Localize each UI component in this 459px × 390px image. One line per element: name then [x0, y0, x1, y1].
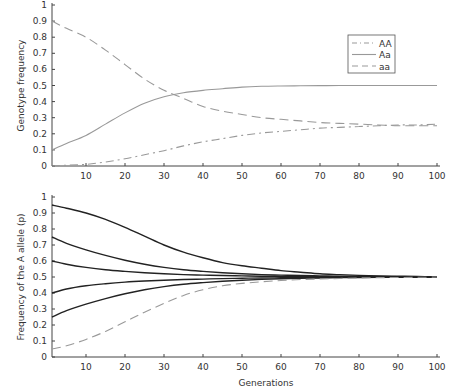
- y-tick-label: 0.2: [33, 320, 47, 330]
- y-tick-label: 0.3: [33, 304, 47, 314]
- y-axis-title: Genotype frequency: [16, 39, 26, 132]
- x-tick-label: 40: [197, 362, 209, 372]
- x-tick-label: 30: [158, 362, 170, 372]
- x-axis-title: Generations: [239, 378, 294, 388]
- series-line-aa: [52, 85, 437, 149]
- y-tick-label: 0.2: [33, 129, 47, 139]
- x-tick-label: 30: [158, 171, 170, 181]
- y-tick-label: 1: [41, 0, 47, 10]
- y-tick-label: 0: [41, 161, 47, 171]
- legend: AAAaaa: [348, 35, 395, 73]
- x-tick-label: 40: [197, 171, 209, 181]
- x-tick-label: 20: [119, 171, 131, 181]
- x-tick-label: 10: [80, 362, 92, 372]
- y-tick-label: 0.7: [33, 240, 47, 250]
- x-tick-label: 100: [428, 362, 445, 372]
- y-tick-label: 0.4: [33, 288, 48, 298]
- y-tick-label: 0.6: [33, 256, 48, 266]
- y-axis-title: Frequency of the A allele (p): [16, 213, 26, 340]
- legend-label: Aa: [379, 50, 391, 60]
- y-tick-label: 0.9: [33, 16, 48, 26]
- x-tick-label: 80: [353, 171, 365, 181]
- y-tick-label: 0.1: [33, 145, 47, 155]
- series-line-p0-0-4: [52, 277, 437, 293]
- y-tick-label: 0.6: [33, 64, 48, 74]
- genotype-frequency-panel: 00.10.20.30.40.50.60.70.80.9110203040506…: [16, 0, 446, 181]
- x-tick-label: 20: [119, 362, 131, 372]
- y-tick-label: 0.1: [33, 336, 47, 346]
- series-line-p0-0-75: [52, 237, 437, 277]
- legend-label: aa: [379, 62, 390, 72]
- y-tick-label: 0.9: [33, 208, 48, 218]
- x-tick-label: 90: [392, 171, 404, 181]
- allele-frequency-panel: 00.10.20.30.40.50.60.70.80.9110203040506…: [16, 192, 446, 388]
- y-tick-label: 1: [41, 192, 47, 202]
- y-tick-label: 0.3: [33, 113, 47, 123]
- y-tick-label: 0.5: [33, 81, 47, 91]
- y-tick-label: 0.4: [33, 97, 48, 107]
- series-line-p0-0-05: [52, 277, 437, 349]
- series-line-aa: [52, 124, 437, 166]
- series-line-p0-0-6: [52, 261, 437, 277]
- x-tick-label: 100: [428, 171, 445, 181]
- chart-figure: 00.10.20.30.40.50.60.70.80.9110203040506…: [0, 0, 459, 390]
- x-tick-label: 50: [236, 171, 248, 181]
- x-tick-label: 10: [80, 171, 92, 181]
- x-tick-label: 70: [314, 171, 326, 181]
- x-tick-label: 60: [275, 171, 287, 181]
- x-tick-label: 50: [236, 362, 248, 372]
- x-tick-label: 90: [392, 362, 404, 372]
- series-line-p0-0-95: [52, 205, 437, 277]
- y-tick-label: 0.8: [33, 32, 48, 42]
- y-tick-label: 0.5: [33, 272, 47, 282]
- y-tick-label: 0.7: [33, 48, 47, 58]
- x-tick-label: 70: [314, 362, 326, 372]
- x-tick-label: 60: [275, 362, 287, 372]
- x-tick-label: 80: [353, 362, 365, 372]
- y-tick-label: 0: [41, 352, 47, 362]
- y-tick-label: 0.8: [33, 224, 48, 234]
- legend-label: AA: [379, 39, 392, 49]
